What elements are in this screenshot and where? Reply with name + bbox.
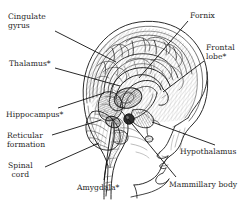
- leader-spinal-cord: [45, 143, 99, 167]
- mammillary-body-shape: [124, 114, 134, 124]
- label-frontal-lobe: Frontal lobe*: [206, 43, 235, 62]
- label-mammillary-body: Mammillary body: [169, 180, 237, 189]
- label-hypothalamus: Hypothalamus: [180, 147, 236, 156]
- leader-hypothalamus: [152, 122, 215, 145]
- limbic-system-figure: Cingulate gyrus Thalamus* Hippocampus* R…: [0, 0, 251, 200]
- label-reticular-formation: Reticular formation: [7, 131, 45, 150]
- label-hippocampus: Hippocampus*: [6, 110, 63, 119]
- label-amygdala: Amygdala*: [77, 183, 119, 192]
- label-spinal-cord: Spinal cord: [8, 161, 33, 180]
- label-cingulate-gyrus: Cingulate gyrus: [8, 12, 46, 31]
- label-fornix: Fornix: [190, 11, 215, 20]
- label-thalamus: Thalamus*: [9, 59, 51, 68]
